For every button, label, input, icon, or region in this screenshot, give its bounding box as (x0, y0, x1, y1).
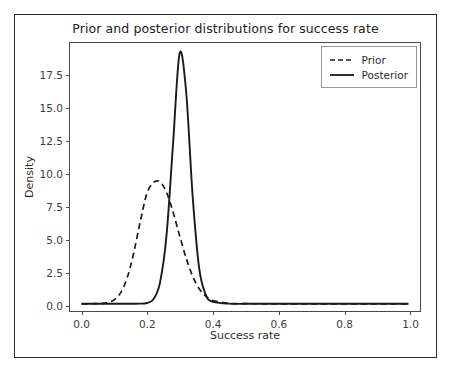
y-tick-mark (66, 75, 70, 76)
legend-label-posterior: Posterior (362, 69, 408, 81)
dashed-line-icon (329, 55, 355, 65)
x-tick-mark (82, 311, 83, 315)
legend-label-prior: Prior (362, 54, 386, 66)
y-tick-mark (66, 207, 70, 208)
y-tick-mark (66, 174, 70, 175)
y-tick-mark (66, 273, 70, 274)
y-axis-label: Density (23, 156, 36, 198)
y-tick-mark (66, 141, 70, 142)
legend-entry-posterior: Posterior (329, 67, 408, 82)
x-tick-mark (213, 311, 214, 315)
x-tick-mark (279, 311, 280, 315)
series-line-prior (81, 181, 408, 304)
legend-entry-prior: Prior (329, 52, 408, 67)
y-tick-mark (66, 240, 70, 241)
x-tick-mark (345, 311, 346, 315)
x-tick-mark (410, 311, 411, 315)
solid-line-icon (329, 70, 355, 80)
y-tick-mark (66, 306, 70, 307)
figure-frame: Prior and posterior distributions for su… (14, 14, 437, 358)
x-tick-mark (147, 311, 148, 315)
chart-legend: Prior Posterior (321, 46, 417, 88)
x-axis-label: Success rate (69, 329, 421, 342)
chart-title: Prior and posterior distributions for su… (15, 21, 436, 36)
plot-axes-area: 0.02.55.07.510.012.515.017.5 0.00.20.40.… (69, 42, 421, 312)
y-tick-mark (66, 108, 70, 109)
